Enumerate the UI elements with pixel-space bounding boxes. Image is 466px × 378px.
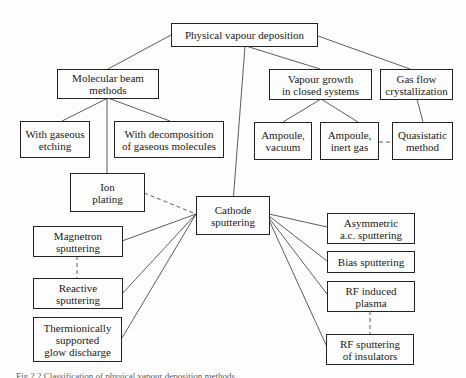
edge-ion-cathode-dashed <box>144 193 196 214</box>
edge-cathode-asymmetric <box>269 214 327 227</box>
node-bias-sputtering: Bias sputtering <box>327 251 415 273</box>
node-ampoule-vacuum: Ampoule, vacuum <box>254 122 312 160</box>
node-molecular-beam-methods: Molecular beam methods <box>57 69 159 99</box>
node-quasistatic-method: Quasistatic method <box>392 122 453 160</box>
edge-pvd-gas-flow <box>318 36 410 69</box>
edge-cathode-magnetron <box>122 214 196 241</box>
node-physical-vapour-deposition: Physical vapour deposition <box>171 23 318 47</box>
edge-mbe-decomposition <box>108 98 170 121</box>
node-thermionic-glow-discharge: Thermionically supported glow discharge <box>33 317 122 362</box>
edge-gasflow-quasistatic <box>417 99 423 122</box>
edge-cathode-thermionic <box>122 214 196 338</box>
node-decomposition-gaseous-molecules: With decomposition of gaseous molecules <box>114 121 224 158</box>
edge-pvd-mbe <box>108 35 171 69</box>
node-gas-flow-crystallization: Gas flow crystallization <box>380 69 453 100</box>
node-rf-induced-plasma: RF induced plasma <box>327 281 415 312</box>
edge-closed-inert <box>321 99 358 122</box>
node-gaseous-etching: With gaseous etching <box>20 121 90 158</box>
node-magnetron-sputtering: Magnetron sputtering <box>33 226 123 257</box>
node-cathode-sputtering: Cathode sputtering <box>196 196 270 235</box>
edge-pvd-vapour-closed <box>246 46 320 69</box>
node-vapour-growth-closed-systems: Vapour growth in closed systems <box>269 69 372 100</box>
node-reactive-sputtering: Reactive sputtering <box>33 278 123 309</box>
node-rf-sputtering-insulators: RF sputtering of insulators <box>326 334 414 365</box>
edge-closed-vacuum <box>283 99 321 122</box>
edge-cathode-rf-insulators <box>269 220 327 347</box>
node-asymmetric-ac-sputtering: Asymmetric a.c. sputtering <box>327 213 415 244</box>
figure-caption: Fig 2.2 Classification of physical vapou… <box>16 369 235 378</box>
node-ampoule-inert-gas: Ampoule, inert gas <box>320 122 379 160</box>
edge-cathode-reactive <box>122 214 196 294</box>
node-ion-plating: Ion plating <box>70 173 145 212</box>
edge-pvd-cathode <box>233 46 245 203</box>
edge-mbe-etching <box>62 98 108 121</box>
